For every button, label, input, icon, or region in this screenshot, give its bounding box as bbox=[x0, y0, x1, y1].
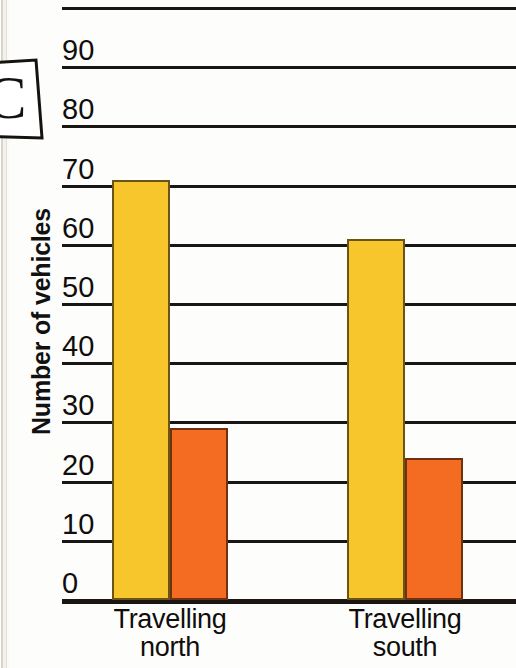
bar-orange-north bbox=[170, 428, 228, 600]
bar-orange-south bbox=[405, 458, 463, 600]
category-label-line1: Travelling bbox=[348, 604, 461, 634]
bar-yellow-south bbox=[347, 239, 405, 600]
category-label-line2: north bbox=[80, 634, 260, 662]
category-label-line2: south bbox=[315, 634, 495, 662]
chart-page: C Number of vehicles 0102030405060708090… bbox=[0, 0, 516, 668]
category-label-south: Travellingsouth bbox=[315, 606, 495, 661]
bar-yellow-north bbox=[112, 180, 170, 600]
plot-area bbox=[62, 0, 516, 668]
category-label-line1: Travelling bbox=[113, 604, 226, 634]
y-axis-title: Number of vehicles bbox=[27, 182, 56, 462]
bar-chart: Number of vehicles 0102030405060708090 T… bbox=[0, 0, 516, 668]
category-label-north: Travellingnorth bbox=[80, 606, 260, 661]
